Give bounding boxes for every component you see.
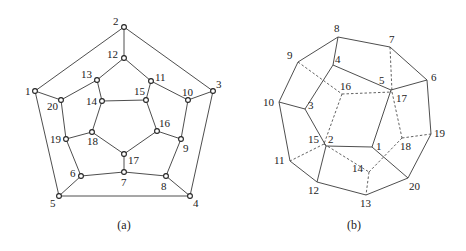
edge-9-8 (298, 37, 338, 62)
edge-6-19 (427, 80, 431, 134)
vertex-6 (79, 174, 84, 179)
vertex-19 (64, 137, 69, 142)
vertex-15 (144, 98, 149, 103)
vertex-label-2: 2 (113, 15, 119, 27)
figure-b-vertex-labels: 1234567891011121314151617181920 (263, 22, 446, 209)
edge-19-20 (408, 134, 431, 178)
vertex-label-16: 16 (340, 80, 352, 92)
edge-11-10 (279, 102, 290, 161)
edge-16-17 (124, 131, 157, 154)
vertex-label-6: 6 (70, 167, 76, 179)
vertex-18 (90, 130, 95, 135)
edge-15-16 (146, 100, 157, 131)
vertex-13 (95, 78, 100, 83)
vertex-label-9: 9 (183, 142, 189, 154)
edge-2-1 (326, 146, 372, 147)
edge-1-20 (35, 91, 61, 100)
vertex-label-18: 18 (400, 140, 412, 152)
vertex-1 (33, 89, 38, 94)
edge-10-9 (279, 62, 298, 102)
edge-14-13 (366, 172, 369, 195)
vertex-label-13: 13 (360, 197, 372, 209)
vertex-8 (164, 174, 169, 179)
edge-9-16 (298, 62, 342, 94)
edge-12-11 (290, 161, 317, 182)
vertex-label-1: 1 (25, 85, 31, 97)
vertex-label-5: 5 (50, 197, 56, 209)
vertex-label-19: 19 (434, 127, 446, 139)
vertex-12 (122, 56, 127, 61)
vertex-9 (179, 137, 184, 142)
vertex-label-6: 6 (431, 71, 437, 83)
figure-b-dodecahedron-3d: 1234567891011121314151617181920 (b) (263, 22, 446, 232)
vertex-label-4: 4 (193, 197, 199, 209)
vertex-label-11: 11 (274, 154, 285, 166)
edge-13-12 (317, 182, 366, 195)
edge-16-17 (342, 92, 392, 94)
edge-2-12 (317, 146, 326, 182)
edge-8-7 (338, 37, 390, 47)
edge-8-7 (124, 172, 166, 176)
edge-5-6 (391, 80, 427, 90)
edge-9-8 (166, 139, 181, 176)
edge-13-14 (97, 80, 102, 101)
vertex-2 (122, 25, 127, 30)
vertex-label-3: 3 (308, 99, 314, 111)
edge-4-8 (166, 176, 190, 196)
edge-7-6 (81, 172, 124, 176)
edge-12-13 (97, 58, 124, 80)
vertex-label-18: 18 (87, 135, 99, 147)
vertex-4 (188, 194, 193, 199)
edge-18-19 (402, 134, 431, 138)
vertex-label-3: 3 (216, 78, 222, 90)
vertex-label-5: 5 (379, 74, 385, 86)
edge-14-15 (102, 100, 146, 101)
edge-15-11 (290, 144, 324, 161)
vertex-label-2: 2 (328, 133, 334, 145)
vertex-label-17: 17 (396, 92, 408, 104)
vertex-label-8: 8 (334, 22, 340, 34)
vertex-label-7: 7 (121, 176, 127, 188)
vertex-16 (155, 129, 160, 134)
edge-5-6 (59, 176, 81, 196)
edge-1-5 (372, 90, 391, 147)
vertex-17 (122, 152, 127, 157)
vertex-14 (100, 99, 105, 104)
vertex-20 (59, 98, 64, 103)
figure-b-caption: (b) (347, 218, 361, 232)
figure-a-planar-graph: 1234567891011121314151617181920 (a) (25, 15, 222, 232)
vertex-label-15: 15 (134, 85, 146, 97)
vertex-label-12: 12 (308, 184, 319, 196)
vertex-label-17: 17 (128, 154, 140, 166)
vertex-3 (211, 89, 216, 94)
edge-10-9 (181, 100, 188, 139)
vertex-label-13: 13 (81, 68, 93, 80)
vertex-label-7: 7 (389, 33, 395, 45)
vertex-label-1: 1 (376, 140, 382, 152)
vertex-label-16: 16 (159, 117, 171, 129)
vertex-label-9: 9 (287, 49, 293, 61)
vertex-label-20: 20 (409, 180, 421, 192)
edge-14-18 (369, 138, 402, 172)
vertex-label-11: 11 (155, 71, 166, 83)
edge-2-3 (124, 27, 213, 91)
dodecahedron-graph-figure: 1234567891011121314151617181920 (a) 1234… (0, 0, 466, 251)
figure-a-caption: (a) (117, 218, 130, 232)
edge-20-13 (366, 178, 408, 195)
vertex-label-12: 12 (107, 48, 118, 60)
edge-12-11 (124, 58, 151, 81)
vertex-7 (122, 170, 127, 175)
vertex-label-14: 14 (86, 95, 98, 107)
edge-9-16 (157, 131, 181, 139)
vertex-label-19: 19 (50, 133, 62, 145)
vertex-label-8: 8 (161, 180, 167, 192)
edge-3-10 (279, 102, 305, 109)
vertex-label-10: 10 (263, 96, 275, 108)
vertex-label-20: 20 (47, 100, 59, 112)
vertex-10 (186, 98, 191, 103)
vertex-label-15: 15 (308, 133, 320, 145)
edge-7-6 (390, 47, 427, 80)
vertex-label-10: 10 (182, 86, 194, 98)
vertex-label-4: 4 (335, 53, 341, 65)
vertex-11 (149, 79, 154, 84)
